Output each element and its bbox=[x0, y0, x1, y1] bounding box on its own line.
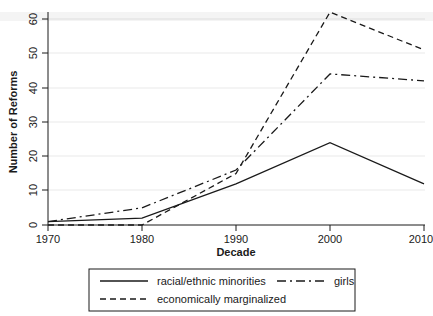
x-tick-label-1990: 1990 bbox=[224, 233, 248, 245]
x-axis-title: Decade bbox=[216, 246, 255, 258]
legend-label-girls[interactable]: girls bbox=[334, 275, 355, 287]
legend-label-racial-ethnic-minorities[interactable]: racial/ethnic minorities bbox=[157, 275, 266, 287]
y-tick-label-0: 0 bbox=[27, 222, 39, 228]
y-axis: 60 50 40 30 20 10 0 Number of Reforms bbox=[7, 12, 48, 228]
y-tick-label-10: 10 bbox=[27, 184, 39, 196]
x-tick-label-1980: 1980 bbox=[130, 233, 154, 245]
gridlines bbox=[48, 19, 425, 190]
y-tick-label-50: 50 bbox=[27, 47, 39, 59]
line-chart: 60 50 40 30 20 10 0 Number of Reforms 19… bbox=[0, 0, 433, 316]
chart-figure: 60 50 40 30 20 10 0 Number of Reforms 19… bbox=[0, 0, 433, 316]
x-tick-label-1970: 1970 bbox=[36, 233, 60, 245]
y-tick-label-60: 60 bbox=[27, 13, 39, 25]
x-axis: 1970 1980 1990 2000 2010 Decade bbox=[36, 225, 433, 258]
series-line-girls bbox=[48, 74, 424, 222]
x-tick-label-2000: 2000 bbox=[318, 233, 342, 245]
legend-label-economically-marginalized[interactable]: economically marginalized bbox=[157, 293, 286, 305]
y-tick-label-20: 20 bbox=[27, 150, 39, 162]
legend: racial/ethnic minorities economically ma… bbox=[89, 269, 355, 311]
series-line-racial-ethnic-minorities bbox=[48, 143, 424, 222]
series-line-economically-marginalized bbox=[48, 12, 424, 225]
y-tick-label-30: 30 bbox=[27, 116, 39, 128]
x-tick-label-2010: 2010 bbox=[409, 233, 433, 245]
y-tick-label-40: 40 bbox=[27, 82, 39, 94]
y-axis-title: Number of Reforms bbox=[7, 71, 19, 174]
series-group bbox=[48, 12, 424, 225]
